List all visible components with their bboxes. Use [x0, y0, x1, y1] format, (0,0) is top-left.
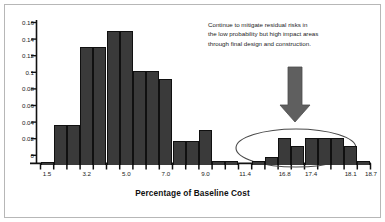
x-tick-label: 11.4	[239, 170, 251, 177]
x-tick-label: 5.0	[122, 170, 131, 177]
x-tick-label: 18.7	[365, 170, 377, 177]
callout-line-1: Continue to mitigate residual risks in	[208, 20, 368, 29]
x-tick-label: 17.4	[305, 170, 317, 177]
x-tick-label: 1.5	[43, 170, 52, 177]
x-axis-title: Percentage of Baseline Cost	[0, 188, 385, 198]
callout-annotation: Continue to mitigate residual risks in t…	[208, 20, 368, 48]
x-tick-label: 18.1	[345, 170, 357, 177]
histogram-figure: 0.16 0.14 0.12 0.1 0.08 0.06 0.04 0.02 0…	[0, 0, 385, 222]
x-tick-label: 16.8	[279, 170, 291, 177]
callout-line-3: through final design and construction.	[208, 39, 368, 48]
x-tick-label: 7.0	[162, 170, 171, 177]
x-tick-label: 9.0	[201, 170, 210, 177]
callout-line-2: the low probability but high impact area…	[208, 29, 368, 38]
x-tick-label: 3.2	[82, 170, 91, 177]
